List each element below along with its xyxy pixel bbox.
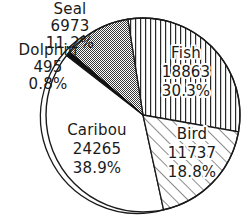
pie-label-caribou-percent: 38.9% (73, 159, 122, 177)
pie-label-dolphin-percent: 0.8% (2, 76, 94, 93)
pie-label-fish-name: Fish (171, 44, 201, 62)
pie-label-bird-value: 11737 (168, 144, 217, 162)
pie-label-dolphin-name: Dolphin (2, 42, 94, 59)
pie-chart: Fish 18863 30.3% Fish 18863 30.3% Bird 1… (0, 0, 245, 224)
pie-label-bird-name: Bird (177, 125, 208, 143)
pie-label-dolphin-value: 495 (2, 59, 94, 76)
pie-label-seal-name: Seal (24, 1, 116, 18)
pie-label-bird-percent: 18.8% (168, 163, 217, 181)
pie-label-fish-value: 18863 (162, 63, 211, 81)
pie-label-seal-value: 6973 (24, 18, 116, 35)
pie-label-caribou-name: Caribou (67, 121, 127, 139)
pie-label-caribou: Caribou 24265 38.9% Caribou 24265 38.9% (67, 121, 127, 177)
pie-label-dolphin: Dolphin 495 0.8% (2, 42, 94, 92)
pie-label-fish-percent: 30.3% (162, 82, 211, 100)
pie-label-caribou-value: 24265 (73, 140, 122, 158)
